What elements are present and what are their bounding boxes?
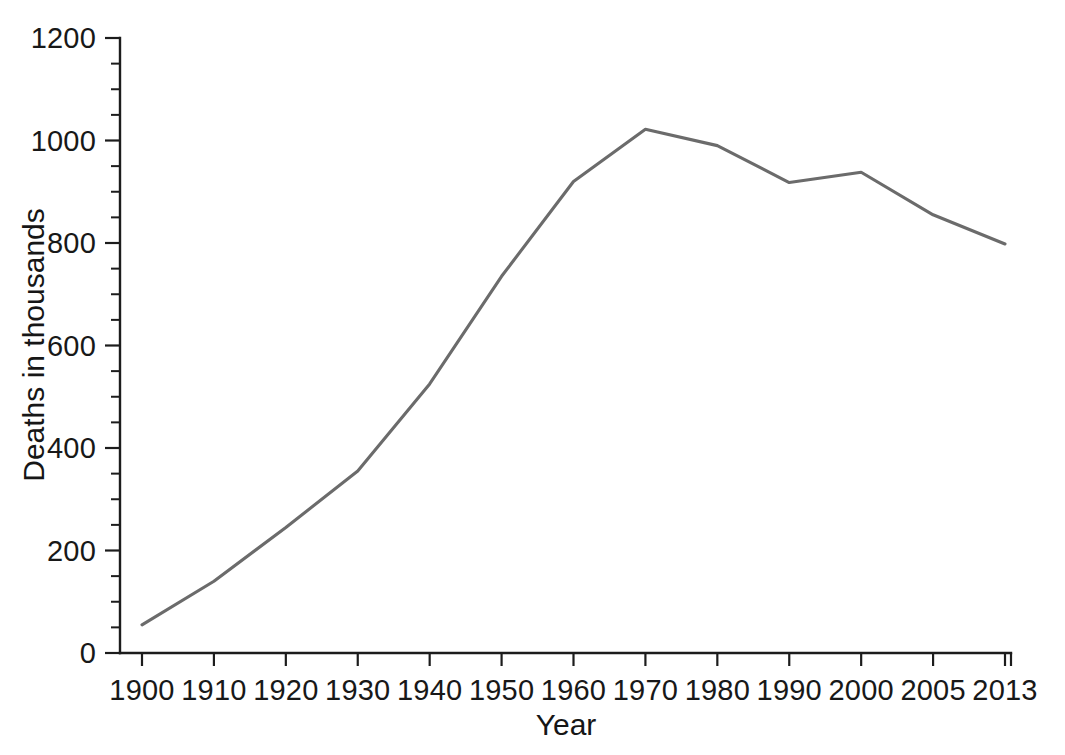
x-axis-tick-label: 1930 [325, 674, 390, 706]
x-axis-tick-label: 1980 [685, 674, 750, 706]
line-chart-figure: 020040060080010001200 190019101920193019… [0, 0, 1065, 755]
y-axis-title: Deaths in thousands [17, 208, 50, 482]
y-axis-tick-label: 200 [47, 535, 96, 567]
x-axis-tick-label: 1900 [109, 674, 174, 706]
x-axis-tick-label: 1970 [613, 674, 678, 706]
chart-canvas: 020040060080010001200 190019101920193019… [0, 0, 1065, 755]
x-axis-tick-label: 2005 [900, 674, 965, 706]
y-axis-tick-label: 800 [47, 227, 96, 259]
x-axis-tick-label: 2000 [829, 674, 894, 706]
x-axis-tick-label: 1920 [253, 674, 318, 706]
x-axis-tick-label: 2013 [972, 674, 1037, 706]
x-axis-tick-label: 1990 [757, 674, 822, 706]
x-axis-tick-label: 1950 [469, 674, 534, 706]
y-axis-tick-label: 1200 [31, 22, 96, 54]
y-axis-tick-label: 600 [47, 330, 96, 362]
x-axis-tick-label: 1910 [181, 674, 246, 706]
y-axis-tick-label: 1000 [31, 125, 96, 157]
x-axis-tick-label: 1960 [541, 674, 606, 706]
x-axis-tick-label: 1940 [397, 674, 462, 706]
y-axis-tick-label: 0 [80, 637, 96, 669]
x-axis-title: Year [536, 708, 597, 741]
chart-background [0, 0, 1065, 755]
y-axis-tick-label: 400 [47, 432, 96, 464]
